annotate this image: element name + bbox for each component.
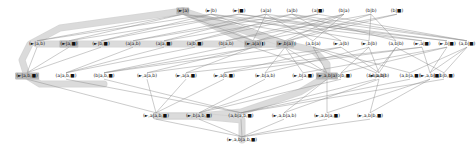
lattice-node[interactable]: (a,b|■) [458, 40, 476, 47]
lattice-node[interactable]: (►|a,b,■) [15, 72, 39, 79]
lattice-node[interactable]: (a,b|a,b,■) [227, 112, 254, 119]
lattice-node[interactable]: (a|b,■) [186, 40, 205, 47]
lattice-node[interactable]: (a|b) [286, 7, 299, 14]
lattice-edge [27, 47, 101, 73]
lattice-edge [341, 47, 369, 73]
highlight-path [156, 44, 327, 116]
lattice-edge [66, 47, 164, 73]
lattice-node[interactable]: (b|a) [338, 7, 351, 14]
lattice-edge [104, 79, 241, 113]
lattice-edge [285, 47, 303, 73]
lattice-node[interactable]: (a,b|b) [387, 40, 404, 47]
lattice-node[interactable]: (►|■) [231, 7, 246, 14]
lattice-node[interactable]: (►,b|a) [276, 40, 294, 47]
lattice-node[interactable]: (►,b|b) [360, 40, 378, 47]
lattice-node[interactable]: (►,a|a,■) [174, 72, 198, 79]
lattice-node[interactable]: (a|a,b) [124, 40, 141, 47]
lattice-node[interactable]: (►,a,b|a) [316, 72, 338, 79]
lattice-node[interactable]: (►,a|a,b,■) [142, 112, 170, 119]
lattice-node[interactable]: (b|b) [365, 7, 378, 14]
lattice-edge [341, 47, 379, 73]
lattice-node[interactable]: (►,a|■) [412, 40, 431, 47]
lattice-node[interactable]: (a,b|a) [304, 40, 321, 47]
lattice-node[interactable]: (►|a) [176, 7, 189, 14]
lattice-node[interactable]: (►,b|a,b) [254, 72, 276, 79]
lattice-edge [242, 119, 327, 137]
lattice-node[interactable]: (►|b) [204, 7, 218, 14]
lattice-edge [369, 14, 371, 41]
lattice-edge [147, 47, 253, 73]
lattice-node[interactable]: (►,a,b|a,b,■) [226, 136, 258, 143]
lattice-node[interactable]: (b|■) [390, 7, 404, 14]
lattice-edge [242, 119, 284, 137]
lattice-node[interactable]: (►,a|b,■) [212, 72, 236, 79]
lattice-node[interactable]: (►,a,b|b,■) [356, 112, 384, 119]
lattice-node[interactable]: (►,b|a,■) [291, 72, 315, 79]
lattice-node[interactable]: (►,a,b|a,b) [271, 112, 298, 119]
lattice-edge [370, 79, 379, 113]
lattice-node[interactable]: (►|a,■) [59, 40, 78, 47]
lattice-edge [104, 47, 257, 73]
lattice-node[interactable]: (►,a,b|a,■) [313, 112, 341, 119]
lattice-node[interactable]: (►,b|■) [437, 40, 456, 47]
lattice-node[interactable]: (►,a,b|■) [418, 72, 442, 79]
lattice-node[interactable]: (►,b|a,b,■) [185, 112, 213, 119]
lattice-edge [410, 47, 467, 73]
lattice-node[interactable]: (►|a,b) [28, 40, 46, 47]
highlight-path-inner [156, 44, 327, 116]
lattice-node[interactable]: (►,a|a) [244, 40, 262, 47]
lattice-edge [27, 47, 69, 73]
lattice-edge [156, 79, 186, 113]
lattice-node[interactable]: (a|a,■) [155, 40, 174, 47]
lattice-node[interactable]: (►,a|b) [332, 40, 350, 47]
lattice-edge [242, 119, 370, 137]
lattice-node[interactable]: (b|a,b,■) [92, 72, 115, 79]
lattice-node[interactable]: (a|a,b,■) [55, 72, 78, 79]
lattice-node[interactable]: (►|b,■) [91, 40, 110, 47]
lattice-node[interactable]: (b|a,b) [217, 40, 234, 47]
lattice-edge [396, 47, 444, 73]
lattice-edge [241, 79, 410, 113]
lattice-node[interactable]: (►,a|a,b) [136, 72, 158, 79]
lattice-edge [104, 47, 226, 73]
lattice-node[interactable]: (a|a) [260, 7, 273, 14]
lattice-node[interactable]: (►,a,b|b) [368, 72, 390, 79]
lattice-edge [444, 47, 467, 73]
lattice-edge [430, 47, 467, 73]
lattice-node[interactable]: (a|■) [311, 7, 325, 14]
